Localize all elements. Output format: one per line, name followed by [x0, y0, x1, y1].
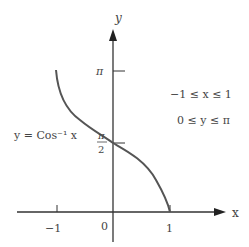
tick-label-0: 0 [101, 220, 108, 233]
range-note: 0 ≤ y ≤ π [177, 114, 230, 127]
tick-label-neg1: −1 [45, 222, 61, 235]
y-axis-label: y [114, 11, 122, 25]
tick-label-pi-half-num: π [97, 130, 105, 141]
function-label: y = Cos⁻¹ x [13, 129, 78, 142]
tick-label-1: 1 [166, 222, 173, 235]
arccos-graph: y x −1 0 1 π π 2 y = Cos⁻¹ x −1 ≤ x ≤ 1 … [0, 0, 249, 247]
tick-label-pi-half-den: 2 [98, 144, 104, 155]
x-axis-label: x [232, 206, 239, 220]
y-axis-arrow-icon [109, 29, 117, 41]
x-axis-arrow-icon [214, 208, 226, 216]
domain-note: −1 ≤ x ≤ 1 [170, 88, 232, 101]
tick-label-pi: π [95, 65, 104, 78]
